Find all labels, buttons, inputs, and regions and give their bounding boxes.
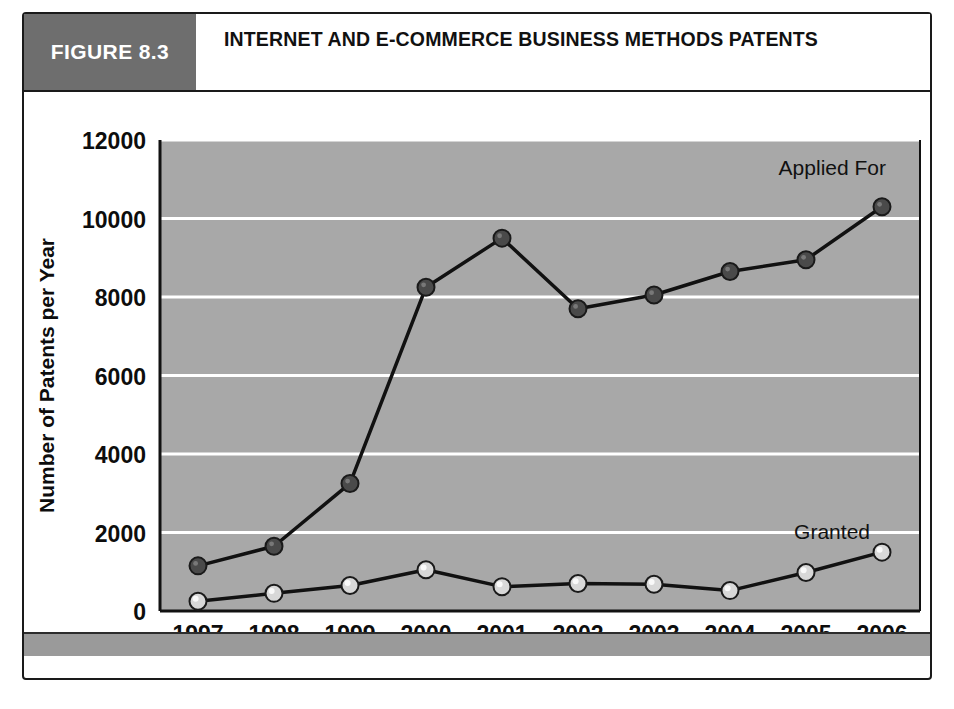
data-point-highlight (649, 579, 655, 585)
figure-number-badge: FIGURE 8.3 (24, 14, 196, 90)
data-point-marker (190, 593, 207, 610)
data-point-marker (266, 538, 283, 555)
data-point-highlight (573, 578, 579, 584)
data-point-marker (494, 230, 511, 247)
data-point-highlight (193, 561, 198, 566)
y-tick-label: 4000 (95, 442, 146, 468)
data-point-highlight (421, 282, 426, 287)
data-point-highlight (497, 233, 502, 238)
data-point-highlight (801, 255, 806, 260)
figure-footer-bar (24, 632, 930, 656)
data-point-marker (494, 578, 511, 595)
data-point-highlight (421, 564, 427, 570)
data-point-highlight (345, 479, 350, 484)
chart-region: 0200040006000800010000120001997199819992… (24, 92, 930, 644)
data-point-highlight (801, 567, 807, 573)
patents-line-chart: 0200040006000800010000120001997199819992… (24, 92, 930, 644)
data-point-highlight (725, 585, 731, 591)
data-point-marker (342, 475, 359, 492)
data-point-marker (418, 561, 435, 578)
y-tick-label: 10000 (82, 207, 146, 233)
data-point-marker (342, 577, 359, 594)
data-point-marker (722, 263, 739, 280)
figure-frame: FIGURE 8.3 INTERNET AND E-COMMERCE BUSIN… (22, 12, 932, 680)
data-point-marker (418, 279, 435, 296)
data-point-marker (190, 557, 207, 574)
figure-title: INTERNET AND E-COMMERCE BUSINESS METHODS… (196, 14, 930, 90)
data-point-highlight (193, 596, 199, 602)
data-point-highlight (497, 581, 503, 587)
data-point-highlight (269, 541, 274, 546)
data-point-highlight (649, 290, 654, 295)
series-label-granted: Granted (794, 520, 870, 543)
data-point-highlight (573, 304, 578, 309)
data-point-marker (570, 575, 587, 592)
figure-header: FIGURE 8.3 INTERNET AND E-COMMERCE BUSIN… (24, 14, 930, 92)
data-point-highlight (725, 267, 730, 272)
y-tick-label: 8000 (95, 285, 146, 311)
data-point-marker (646, 287, 663, 304)
data-point-marker (722, 582, 739, 599)
y-tick-label: 6000 (95, 364, 146, 390)
data-point-highlight (877, 547, 883, 553)
data-point-marker (798, 564, 815, 581)
data-point-marker (646, 576, 663, 593)
data-point-highlight (345, 580, 351, 586)
series-label-applied-for: Applied For (779, 156, 886, 179)
data-point-highlight (269, 588, 275, 594)
data-point-marker (798, 251, 815, 268)
y-tick-label: 2000 (95, 521, 146, 547)
data-point-marker (570, 300, 587, 317)
y-axis-title: Number of Patents per Year (35, 238, 58, 513)
data-point-marker (874, 544, 891, 561)
data-point-marker (874, 198, 891, 215)
y-tick-label: 12000 (82, 128, 146, 154)
y-tick-label: 0 (133, 599, 146, 625)
data-point-marker (266, 585, 283, 602)
data-point-highlight (877, 202, 882, 207)
